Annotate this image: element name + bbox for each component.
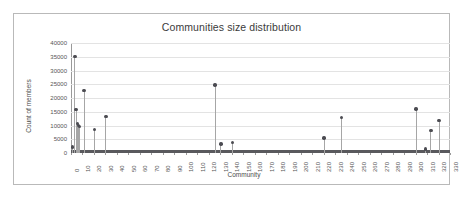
data-point-stem: [105, 116, 106, 153]
x-axis-tick-mark: [324, 153, 325, 155]
y-axis-tick-label: 25000: [50, 81, 67, 87]
x-axis-tick-mark: [105, 153, 106, 155]
data-point-marker: [424, 147, 427, 150]
data-point-marker: [231, 141, 234, 144]
y-axis-tick-label: 0: [64, 150, 67, 156]
data-point-stem: [430, 130, 431, 153]
x-axis-tick-mark: [117, 153, 118, 155]
x-axis-tick-mark: [197, 153, 198, 155]
data-point-marker: [73, 55, 76, 58]
x-axis-tick-mark: [393, 153, 394, 155]
y-axis-tick-label: 20000: [50, 95, 67, 101]
x-axis-tick-mark: [450, 153, 451, 155]
x-axis-tick-mark: [439, 153, 440, 155]
x-axis-tick-mark: [347, 153, 348, 155]
data-point-stem: [416, 109, 417, 153]
x-axis-tick-mark: [370, 153, 371, 155]
x-axis-tick-mark: [140, 153, 141, 155]
data-point-marker: [340, 116, 343, 119]
data-point-marker: [104, 115, 107, 118]
x-axis-tick-mark: [266, 153, 267, 155]
x-axis-tick-mark: [174, 153, 175, 155]
data-point-marker: [414, 107, 417, 110]
x-axis-tick-mark: [255, 153, 256, 155]
data-point-marker: [78, 125, 81, 128]
x-axis-tick-mark: [289, 153, 290, 155]
x-axis-title: Community: [44, 171, 444, 178]
data-point-marker: [74, 108, 77, 111]
y-axis-tick-labels: 0500010000150002000025000300003500040000: [33, 43, 67, 153]
gridline: [71, 71, 450, 72]
x-axis-tick-mark: [358, 153, 359, 155]
y-axis-tick-label: 5000: [54, 136, 67, 142]
x-axis-tick-mark: [94, 153, 95, 155]
y-axis-tick-label: 30000: [50, 68, 67, 74]
y-axis-tick-label: 35000: [50, 54, 67, 60]
data-point-stem: [215, 85, 216, 153]
x-axis-tick-mark: [163, 153, 164, 155]
x-axis-tick-mark: [209, 153, 210, 155]
data-point-marker: [437, 119, 440, 122]
x-axis-tick-mark: [128, 153, 129, 155]
y-axis-tick-label: 10000: [50, 123, 67, 129]
data-point-stem: [79, 127, 80, 153]
y-axis-tick-label: 40000: [50, 40, 67, 46]
x-axis-tick-mark: [151, 153, 152, 155]
data-point-stem: [84, 91, 85, 153]
x-axis-tick-mark: [243, 153, 244, 155]
y-axis-title-label: Count of members: [25, 66, 32, 146]
x-axis-tick-mark: [381, 153, 382, 155]
gridline: [71, 126, 450, 127]
data-point-stem: [324, 138, 325, 153]
chart-title: Communities size distribution: [14, 21, 449, 33]
data-point-stem: [341, 118, 342, 153]
gridline: [71, 57, 450, 58]
gridline: [71, 139, 450, 140]
data-point-marker: [322, 136, 325, 139]
gridline: [71, 98, 450, 99]
data-point-marker: [213, 83, 216, 86]
x-axis-tick-mark: [416, 153, 417, 155]
data-point-marker: [93, 128, 96, 131]
data-point-stem: [94, 129, 95, 153]
x-axis-tick-mark: [278, 153, 279, 155]
gridline: [71, 112, 450, 113]
x-axis-tick-label: 330: [453, 162, 459, 172]
data-point-marker: [219, 142, 222, 145]
chart-container: Communities size distribution Count of m…: [13, 13, 450, 185]
plot-area: [71, 43, 450, 153]
x-axis-tick-mark: [427, 153, 428, 155]
data-point-marker: [429, 129, 432, 132]
data-point-stem: [439, 121, 440, 153]
y-axis-title: Count of members: [19, 0, 26, 66]
y-axis-tick-label: 15000: [50, 109, 67, 115]
x-axis-tick-mark: [301, 153, 302, 155]
x-axis-tick-mark: [404, 153, 405, 155]
gridline: [71, 43, 450, 44]
x-axis-tick-mark: [82, 153, 83, 155]
data-point-marker: [82, 89, 85, 92]
x-axis-tick-mark: [312, 153, 313, 155]
x-axis-tick-mark: [71, 153, 72, 155]
x-axis-tick-mark: [335, 153, 336, 155]
data-point-stem: [232, 143, 233, 153]
x-axis-tick-mark: [186, 153, 187, 155]
gridline: [71, 84, 450, 85]
x-axis-tick-mark: [232, 153, 233, 155]
x-axis-tick-mark: [220, 153, 221, 155]
